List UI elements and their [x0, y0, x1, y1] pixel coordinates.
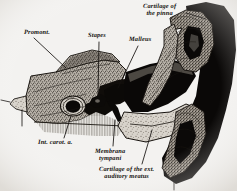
label-cartilage-meatus-line1: Cartilage of the ext. — [99, 166, 154, 173]
label-promontory: Promont. — [24, 29, 50, 36]
label-int-carotid-line1: Int. carot. a. — [38, 139, 73, 146]
label-cartilage-meatus-line2: auditory meatus — [99, 173, 154, 180]
label-cartilage-pinna-line1: Cartilage of — [143, 3, 176, 10]
label-stapes-line1: Stapes — [88, 32, 106, 39]
label-promontory-line1: Promont. — [24, 29, 50, 36]
label-membrana-tympani-line2: tympani — [95, 155, 125, 162]
label-stapes: Stapes — [88, 32, 106, 39]
label-membrana-tympani: Membrana tympani — [95, 148, 125, 162]
label-malleus: Malleus — [129, 36, 151, 43]
label-membrana-tympani-line1: Membrana — [95, 148, 125, 155]
label-cartilage-of-the-pinna: Cartilage of the pinna — [143, 3, 176, 17]
label-malleus-line1: Malleus — [129, 36, 151, 43]
label-internal-carotid-artery: Int. carot. a. — [38, 139, 73, 146]
label-cartilage-pinna-line2: the pinna — [143, 10, 176, 17]
label-cartilage-ext-auditory-meatus: Cartilage of the ext. auditory meatus — [99, 166, 154, 180]
anatomical-figure: Cartilage of the pinna Promont. Stapes M… — [0, 0, 237, 191]
